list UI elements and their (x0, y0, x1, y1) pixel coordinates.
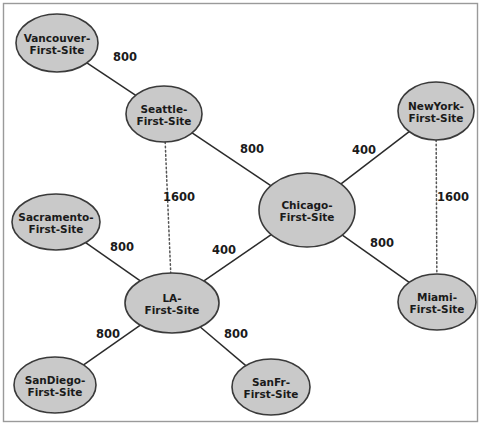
node-sandiego[interactable]: SanDiego-First-Site (14, 357, 96, 413)
node-label-sacramento-line1: Sacramento- (18, 211, 93, 223)
node-newyork[interactable]: NewYork-First-Site (398, 82, 474, 140)
node-label-miami-line2: First-Site (410, 303, 465, 315)
edge-cost-label-la-sanfr: 800 (224, 327, 248, 341)
node-seattle[interactable]: Seattle-First-Site (126, 86, 202, 142)
node-miami[interactable]: Miami-First-Site (398, 274, 476, 330)
network-diagram: Vancouver-First-SiteSeattle-First-SiteNe… (0, 0, 481, 425)
edge-cost-label-la-sandiego: 800 (96, 327, 120, 341)
nodes-layer: Vancouver-First-SiteSeattle-First-SiteNe… (12, 14, 476, 415)
edge-cost-label-seattle-chicago: 800 (240, 142, 264, 156)
node-chicago[interactable]: Chicago-First-Site (259, 173, 355, 247)
node-label-sanfr-line2: First-Site (244, 388, 299, 400)
edge-cost-label-chicago-newyork: 400 (352, 143, 376, 157)
edge-cost-label-sacramento-la: 800 (110, 240, 134, 254)
node-la[interactable]: LA-First-Site (125, 273, 219, 333)
node-label-sandiego-line2: First-Site (28, 386, 83, 398)
node-label-newyork-line2: First-Site (409, 112, 464, 124)
node-label-miami-line1: Miami- (417, 291, 457, 303)
network-diagram-canvas: Vancouver-First-SiteSeattle-First-SiteNe… (0, 0, 481, 425)
node-label-seattle-line1: Seattle- (141, 103, 188, 115)
node-label-chicago-line2: First-Site (280, 211, 335, 223)
edge-vancouver-seattle (87, 63, 136, 95)
node-label-sacramento-line2: First-Site (29, 223, 84, 235)
node-label-vancouver-line2: First-Site (30, 44, 85, 56)
node-label-seattle-line2: First-Site (137, 115, 192, 127)
edge-newyork-miami (436, 140, 437, 274)
edge-seattle-chicago (192, 133, 271, 186)
node-label-newyork-line1: NewYork- (408, 100, 464, 112)
node-label-la-line2: First-Site (145, 304, 200, 316)
node-sacramento[interactable]: Sacramento-First-Site (12, 194, 100, 250)
edge-cost-label-la-chicago: 400 (212, 243, 236, 257)
node-label-la-line1: LA- (162, 292, 181, 304)
edge-cost-label-vancouver-seattle: 800 (113, 50, 137, 64)
edge-la-chicago (204, 235, 271, 281)
edge-cost-label-seattle-la: 1600 (163, 190, 195, 204)
edge-seattle-la (165, 142, 171, 273)
node-vancouver[interactable]: Vancouver-First-Site (16, 14, 98, 72)
edge-cost-label-newyork-miami: 1600 (437, 190, 469, 204)
edge-cost-label-chicago-miami: 800 (370, 236, 394, 250)
node-label-sanfr-line1: SanFr- (252, 376, 290, 388)
node-label-sandiego-line1: SanDiego- (25, 374, 86, 386)
node-label-chicago-line1: Chicago- (281, 199, 332, 211)
node-sanfr[interactable]: SanFr-First-Site (232, 359, 310, 415)
edge-chicago-newyork (341, 132, 409, 184)
node-label-vancouver-line1: Vancouver- (24, 32, 91, 44)
